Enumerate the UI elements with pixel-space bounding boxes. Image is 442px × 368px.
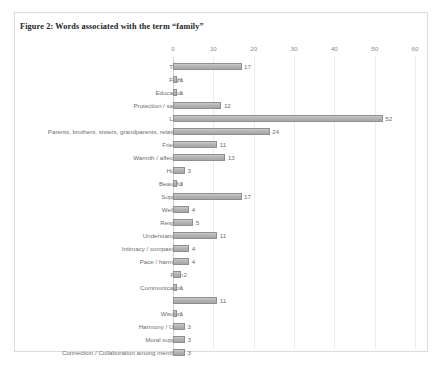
bar: [173, 284, 177, 292]
bar: [173, 180, 177, 188]
bar-row: Protection / safety12: [15, 99, 427, 112]
bar-value-label: 4: [192, 258, 195, 265]
bar-value-label: 3: [188, 336, 191, 343]
bar: [173, 258, 189, 266]
bar-row: Support17: [15, 190, 427, 203]
x-axis-tick-60: 60: [412, 45, 419, 52]
bar-row: Love52: [15, 112, 427, 125]
bar-value-label: 3: [188, 323, 191, 330]
bar-row: Wisdom1: [15, 307, 427, 320]
bar-value-label: 11: [220, 232, 226, 239]
bar-value-label: 1: [180, 76, 183, 83]
bar-value-label: 4: [192, 206, 195, 213]
bar: [173, 76, 177, 84]
bar-value-label: 11: [220, 297, 226, 304]
bar-value-label: 1: [180, 180, 183, 187]
bar-rows: Trust17Fight1Education1Protection / safe…: [15, 57, 427, 349]
bar-row: Welfare4: [15, 203, 427, 216]
bar: [173, 193, 242, 201]
bar-value-label: 4: [192, 245, 195, 252]
bar: [173, 63, 242, 71]
bar-value-label: 1: [180, 89, 183, 96]
bar-value-label: 52: [385, 115, 392, 122]
bar-value-label: 3: [188, 349, 191, 356]
bar-row: Education1: [15, 86, 427, 99]
bar: [173, 167, 185, 175]
bar-row: Warmth / affection13: [15, 151, 427, 164]
bar-row: Beautiful1: [15, 177, 427, 190]
bar-row: Intimacy / compassion4: [15, 242, 427, 255]
bar: [173, 336, 185, 344]
bar-value-label: 12: [224, 102, 231, 109]
bar-row: Respect5: [15, 216, 427, 229]
bar: [173, 219, 193, 227]
bar: [173, 310, 177, 318]
bar-row: Moral support3: [15, 333, 427, 346]
bar: [173, 141, 217, 149]
bar: [173, 349, 185, 357]
bar-row: Pace / harmony4: [15, 255, 427, 268]
x-axis-tick-0: 0: [171, 45, 174, 52]
x-axis-tick-30: 30: [291, 45, 298, 52]
bar-row: Friends11: [15, 138, 427, 151]
x-axis-tick-labels: 0102030405060: [15, 43, 427, 57]
bar: [173, 115, 383, 123]
bar-row: Pain2: [15, 268, 427, 281]
bar: [173, 128, 270, 136]
bar-row: Understanding11: [15, 229, 427, 242]
bar-category-label: Parents, brothers, sisters, grandparents…: [48, 128, 183, 135]
bar: [173, 89, 177, 97]
x-axis-tick-40: 40: [331, 45, 338, 52]
x-axis-tick-50: 50: [371, 45, 378, 52]
bar: [173, 206, 189, 214]
bar: [173, 232, 217, 240]
x-axis-tick-10: 10: [210, 45, 217, 52]
bar-row: Joy11: [15, 294, 427, 307]
bar-value-label: 5: [196, 219, 199, 226]
bar-row: Communication1: [15, 281, 427, 294]
bar-row: Fight1: [15, 73, 427, 86]
bar-category-label: Connection / Collaboration among members: [62, 349, 183, 356]
bar: [173, 271, 181, 279]
x-axis-tick-20: 20: [250, 45, 257, 52]
figure-frame: Figure 2: Words associated with the term…: [14, 12, 428, 352]
bar-value-label: 24: [272, 128, 279, 135]
bar-value-label: 1: [180, 284, 183, 291]
bar-value-label: 1: [180, 310, 183, 317]
bar-value-label: 17: [244, 63, 251, 70]
bar: [173, 297, 217, 305]
bar: [173, 154, 225, 162]
bar-value-label: 11: [220, 141, 226, 148]
bar-row: Home3: [15, 164, 427, 177]
bar-row: Harmony / Unity3: [15, 320, 427, 333]
bar-value-label: 13: [228, 154, 235, 161]
bar-value-label: 3: [188, 167, 191, 174]
bar: [173, 245, 189, 253]
bar: [173, 102, 221, 110]
bar-value-label: 2: [184, 271, 187, 278]
bar-row: Connection / Collaboration among members…: [15, 346, 427, 359]
bar-row: Parents, brothers, sisters, grandparents…: [15, 125, 427, 138]
bar: [173, 323, 185, 331]
bar-row: Trust17: [15, 60, 427, 73]
bar-chart-plot-area: 0102030405060 Trust17Fight1Education1Pro…: [15, 43, 427, 351]
bar-value-label: 17: [244, 193, 251, 200]
figure-title: Figure 2: Words associated with the term…: [20, 22, 204, 31]
